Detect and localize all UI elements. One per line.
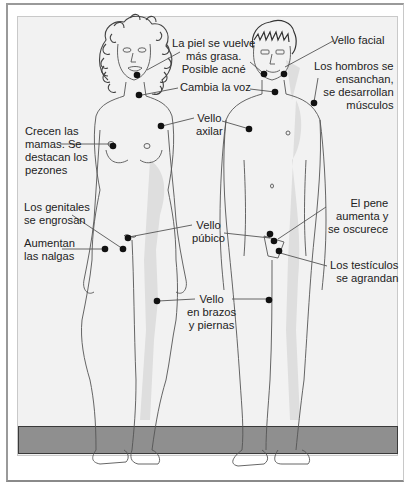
label-facial-hair: Vello facial — [331, 34, 384, 47]
label-genitals-thicken: Los genitales se engrosan — [24, 201, 90, 227]
label-axillary-hair: Vello axilar — [196, 112, 223, 138]
label-penis-grows: El pene aumenta y se oscurece — [328, 197, 388, 236]
label-voice-change: Cambia la voz — [180, 81, 251, 94]
short-hair — [252, 20, 296, 54]
label-shoulders-widen: Los hombros se ensanchan, se desarrollan… — [314, 60, 394, 112]
label-testicles-grow: Los testículos se agrandan — [330, 259, 398, 285]
curly-hair — [100, 14, 172, 94]
markers — [102, 71, 318, 305]
label-breasts-grow: Crecen las mamas. Se destacan los pezone… — [25, 125, 88, 177]
female-figure — [81, 14, 186, 464]
label-skin-oily: La piel se vuelve más grasa. Posible acn… — [172, 37, 255, 76]
label-pubic-hair: Vello púbico — [192, 219, 225, 245]
label-buttocks-grow: Aumentan las nalgas — [24, 237, 75, 263]
label-limb-hair: Vello en brazos y piernas — [187, 293, 236, 332]
